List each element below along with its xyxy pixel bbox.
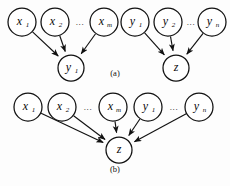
node-z-output-label: z [173,60,179,74]
node-x2: x2 [41,8,69,36]
node-x2-label: x [56,99,63,113]
node-y1-subscript: 1 [152,106,156,114]
node-xm-label: x [107,99,114,113]
edge-y1-to-z [129,119,140,135]
panel-caption-b: (b) [110,164,120,174]
node-x1-label: x [22,99,29,113]
ellipsis-y-row-b: ... [170,102,179,112]
edge-y1top-to-z [145,33,165,55]
node-y2-top-label: y [162,14,169,28]
node-x1-label: x [16,14,23,28]
node-y1-top-label: y [129,14,136,28]
node-x2-subscript: 2 [66,106,70,114]
node-y1-top-subscript: 1 [139,21,143,29]
edge-x2-to-y1 [60,36,65,52]
node-x1-subscript: 1 [32,106,36,114]
node-x1-subscript: 1 [26,21,30,29]
graphical-model-figure: x1x2xmy1y2yny1zx1x2xmy1ynz ............ … [0,0,230,186]
nodes-layer: x1x2xmy1y2yny1zx1x2xmy1ynz [8,8,226,163]
node-y1: y1 [134,93,162,121]
node-y1-label: y [142,99,149,113]
figure-canvas: x1x2xmy1y2yny1zx1x2xmy1ynz ............ … [0,0,230,186]
node-y1-output-label: y [65,60,72,74]
node-x1: x1 [8,8,36,36]
node-yn-top-subscript: n [216,21,220,29]
node-x2-subscript: 2 [59,21,63,29]
node-y1-top: y1 [121,8,149,36]
node-xm: xm [99,93,127,121]
node-xm: xm [90,8,118,36]
node-x2: x2 [48,93,76,121]
node-z-output: z [163,55,189,81]
node-z-output: z [106,137,132,163]
panel-caption-a: (a) [110,68,120,78]
node-yn-label: y [193,99,200,113]
node-y2-top: y2 [154,8,182,36]
node-yn-subscript: n [203,106,207,114]
node-y2-top-subscript: 2 [172,21,176,29]
node-xm-subscript: m [107,21,112,29]
edge-xm-to-z [115,121,117,132]
edge-x1-to-z [41,113,103,142]
edges-layer [33,32,203,143]
ellipsis-y-row-a: ... [187,17,196,27]
node-y1-output-subscript: 1 [75,67,79,75]
ellipsis-x-row-b: ... [84,102,93,112]
node-xm-label: x [98,14,105,28]
node-yn: yn [185,93,213,121]
node-xm-subscript: m [116,106,121,114]
node-yn-top-label: y [206,14,213,28]
node-x1: x1 [14,93,42,121]
ellipsis-x-row-a: ... [76,17,85,27]
edge-y2top-to-z [170,36,173,50]
node-yn-top: yn [198,8,226,36]
edge-yntop-to-z [187,33,203,54]
node-x2-label: x [49,14,56,28]
edge-xm-to-y1 [81,34,95,54]
node-z-output-label: z [116,142,122,156]
node-y1-output: y1 [58,55,84,81]
